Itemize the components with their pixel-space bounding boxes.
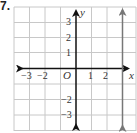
origin-label: O xyxy=(63,69,71,81)
x-axis-label: x xyxy=(128,69,134,81)
y-tick-label: −2 xyxy=(61,94,72,105)
x-tick-label: −2 xyxy=(37,70,48,81)
y-axis-label: y xyxy=(79,6,85,18)
x-tick-label: 1 xyxy=(88,70,93,81)
y-tick-label: 1 xyxy=(66,47,71,58)
y-tick-label: 2 xyxy=(66,32,71,43)
x-tick-label: −3 xyxy=(21,70,32,81)
y-tick-label: 3 xyxy=(66,16,71,27)
coordinate-plane: y x O −3 −2 1 2 3 2 1 −2 −3 xyxy=(0,0,137,133)
x-tick-label: 2 xyxy=(103,70,108,81)
y-tick-label: −3 xyxy=(61,109,72,120)
